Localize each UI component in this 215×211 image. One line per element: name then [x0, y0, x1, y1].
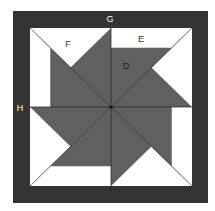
label-G: G — [106, 14, 113, 24]
quilt-block-diagram: G H F E D — [0, 0, 215, 211]
center-point — [109, 105, 112, 108]
label-F: F — [65, 39, 71, 49]
label-E: E — [138, 34, 144, 44]
pinwheel — [30, 28, 192, 186]
label-D: D — [123, 61, 130, 71]
label-H: H — [17, 103, 24, 113]
